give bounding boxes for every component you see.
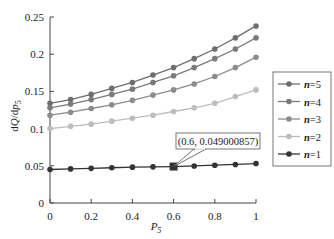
y-tick-label: 0.15 <box>25 85 45 97</box>
legend-label: n=5 <box>304 79 321 90</box>
x-axis-label: P5 <box>150 220 162 235</box>
legend-marker <box>286 99 292 105</box>
data-point <box>253 23 259 29</box>
legend-label: n=4 <box>304 97 322 108</box>
data-point <box>171 87 177 93</box>
y-tick-label: 0.1 <box>30 123 44 135</box>
data-point <box>233 35 239 41</box>
data-point <box>191 163 197 169</box>
y-tick-label: 0 <box>39 197 45 209</box>
data-point <box>233 46 239 52</box>
data-point <box>150 112 156 118</box>
data-point <box>253 161 259 167</box>
legend-label: n=1 <box>304 149 321 160</box>
data-point <box>47 105 53 111</box>
y-tick-label: 0.2 <box>30 48 44 60</box>
line-chart: 00.050.10.150.20.2500.20.40.60.81P5dQ/dp… <box>0 0 334 239</box>
data-point <box>109 118 115 124</box>
data-point <box>253 87 259 93</box>
legend-marker <box>286 116 292 122</box>
data-point <box>212 162 218 168</box>
series-line-n=3 <box>50 57 256 115</box>
data-point <box>88 121 94 127</box>
data-point <box>88 166 94 172</box>
x-tick-label: 0.2 <box>84 210 98 222</box>
data-point <box>150 80 156 86</box>
data-point <box>68 166 74 172</box>
data-point <box>130 98 136 104</box>
data-point <box>253 35 259 41</box>
data-point <box>88 92 94 98</box>
x-tick-label: 0 <box>47 210 53 222</box>
data-point <box>88 106 94 112</box>
data-point <box>130 80 136 86</box>
data-point <box>171 109 177 115</box>
data-point <box>233 65 239 71</box>
data-point <box>212 46 218 52</box>
legend-marker <box>286 134 292 140</box>
data-point <box>233 94 239 100</box>
legend-label: n=2 <box>304 132 321 143</box>
data-point <box>253 54 259 60</box>
y-tick-label: 0.25 <box>25 11 45 23</box>
data-point <box>191 81 197 87</box>
data-point <box>130 164 136 170</box>
data-point <box>68 101 74 107</box>
data-point <box>68 109 74 115</box>
annotation-label: (0.6, 0.049000857) <box>178 136 259 148</box>
x-tick-label: 0.4 <box>126 210 140 222</box>
data-point <box>130 115 136 121</box>
data-point <box>171 73 177 79</box>
data-point <box>109 102 115 108</box>
data-point <box>109 86 115 92</box>
data-point <box>109 165 115 171</box>
x-tick-label: 0.6 <box>167 210 181 222</box>
data-point <box>88 97 94 103</box>
data-point <box>191 56 197 62</box>
data-point <box>150 92 156 98</box>
data-point <box>191 105 197 111</box>
y-tick-label: 0.05 <box>25 160 45 172</box>
data-point <box>233 162 239 168</box>
data-point <box>212 56 218 62</box>
data-point <box>130 86 136 92</box>
x-tick-label: 1 <box>253 210 259 222</box>
data-point <box>47 167 53 173</box>
series-line-n=5 <box>50 26 256 103</box>
data-point <box>191 65 197 71</box>
data-point <box>150 164 156 170</box>
data-point <box>212 74 218 80</box>
annotation-pointer <box>174 149 206 167</box>
y-axis-label: dQ/dp5 <box>8 100 23 132</box>
data-point <box>47 112 53 118</box>
data-point <box>109 92 115 98</box>
data-point <box>212 101 218 107</box>
data-point <box>171 65 177 71</box>
data-point <box>47 126 53 132</box>
data-point <box>150 72 156 78</box>
legend-marker <box>286 81 292 87</box>
data-point <box>68 124 74 130</box>
x-tick-label: 0.8 <box>208 210 222 222</box>
legend-label: n=3 <box>304 114 321 125</box>
legend-marker <box>286 151 292 157</box>
